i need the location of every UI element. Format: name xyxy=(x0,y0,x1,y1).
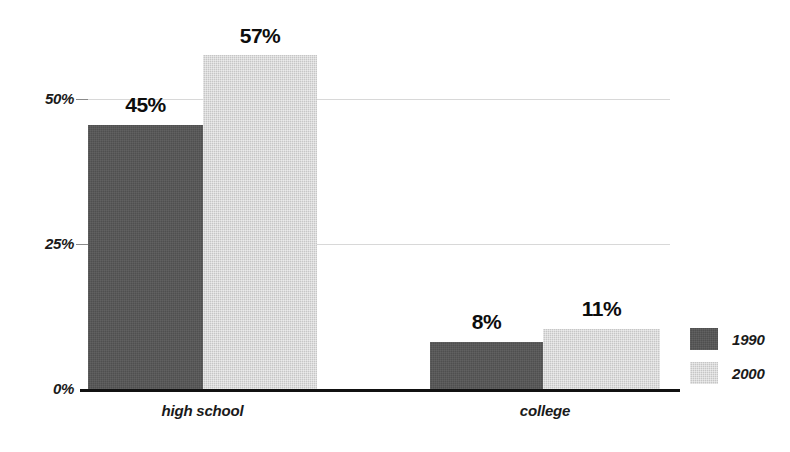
y-axis-label-50-wrap: 50% xyxy=(0,90,74,108)
y-axis-label-0: 0% xyxy=(2,380,74,397)
value-label-high-school-2000: 57% xyxy=(203,24,317,48)
bar-high-school-1990 xyxy=(88,125,203,389)
y-tick-mark-25 xyxy=(76,244,88,245)
x-axis-baseline xyxy=(80,389,680,392)
y-axis-label-50: 50% xyxy=(2,90,74,107)
legend-swatch-2000 xyxy=(690,362,718,384)
legend-item-1990: 1990 xyxy=(690,322,765,356)
plot-area: 50% 25% 0% 45% 57% high school 8% 11% co… xyxy=(0,0,790,452)
legend-label-2000: 2000 xyxy=(732,365,765,382)
bar-chart: 50% 25% 0% 45% 57% high school 8% 11% co… xyxy=(0,0,790,452)
y-tick-mark-50 xyxy=(76,99,88,100)
bar-college-1990 xyxy=(430,342,543,389)
x-axis-label-college: college xyxy=(430,402,660,419)
legend-label-1990: 1990 xyxy=(732,331,765,348)
y-axis-label-0-wrap: 0% xyxy=(0,380,74,398)
bar-high-school-2000 xyxy=(203,55,317,389)
value-label-high-school-1990: 45% xyxy=(88,93,203,117)
chart-legend: 1990 2000 xyxy=(690,322,765,390)
x-axis-label-high-school: high school xyxy=(88,402,317,419)
bar-college-2000 xyxy=(543,329,660,389)
legend-swatch-1990 xyxy=(690,328,718,350)
value-label-college-1990: 8% xyxy=(430,310,543,334)
value-label-college-2000: 11% xyxy=(543,297,660,321)
y-axis-label-25: 25% xyxy=(2,235,74,252)
y-axis-label-25-wrap: 25% xyxy=(0,235,74,253)
legend-item-2000: 2000 xyxy=(690,356,765,390)
